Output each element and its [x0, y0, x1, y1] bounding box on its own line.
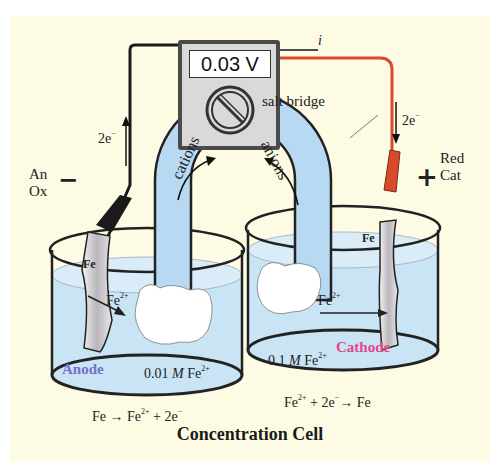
negative-sign: −: [58, 168, 78, 192]
dial-icon: [204, 84, 256, 136]
right-concentration: 0.1 M Fe2+: [268, 352, 327, 368]
cathode-reaction: Fe2+ + 2e−→ Fe: [284, 394, 371, 410]
positive-sign: +: [416, 164, 438, 190]
salt-bridge-label: salt bridge: [262, 94, 325, 109]
anode-reaction: Fe → Fe2+ + 2e−: [92, 408, 182, 424]
current-label: i: [318, 34, 322, 48]
left-concentration: 0.01 M Fe2+: [144, 365, 210, 381]
cathode-label: Cathode: [336, 340, 390, 355]
anode-label: Anode: [62, 362, 104, 377]
right-electron-label: 2e−: [402, 112, 420, 128]
voltmeter-display: 0.03 V: [189, 50, 271, 78]
concentration-cell-diagram: 0.03 V i salt bridge cations anions 2e− …: [0, 0, 500, 472]
right-ion-label: Fe2+: [318, 292, 341, 308]
left-electron-label: 2e−: [98, 130, 116, 146]
right-electrode-label: Fe: [362, 232, 375, 244]
diagram-title: Concentration Cell: [0, 424, 500, 445]
anode-oxidation-tag: AnOx: [29, 166, 47, 200]
reduction-cathode-tag: RedCat: [440, 150, 464, 184]
left-ion-label: Fe2+: [106, 292, 129, 308]
left-electrode-label: Fe: [83, 258, 96, 270]
